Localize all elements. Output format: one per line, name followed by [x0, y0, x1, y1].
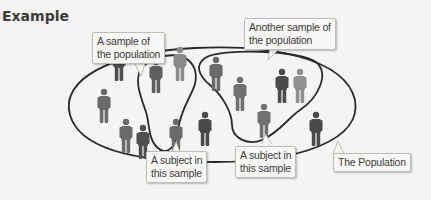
callout-line: The Population: [338, 156, 406, 169]
callout-line: this sample: [240, 162, 291, 175]
callout-line: A subject in: [151, 154, 202, 167]
callout-sample-of-population: A sample of the population: [92, 32, 165, 64]
callout-subject-in-sample-1: A subject in this sample: [146, 151, 207, 183]
callout-the-population: The Population: [333, 153, 411, 172]
callout-line: the population: [249, 34, 331, 47]
person-icon: [174, 47, 187, 81]
person-icon: [258, 104, 271, 138]
callout-line: the population: [97, 48, 160, 61]
person-icon: [294, 69, 307, 103]
callout-line: A sample of: [97, 35, 160, 48]
callout-line: A subject in: [240, 149, 291, 162]
callout-subject-in-sample-2: A subject in this sample: [235, 146, 296, 178]
callout-line: this sample: [151, 167, 202, 180]
person-icon: [276, 69, 289, 103]
callout-line: Another sample of: [249, 21, 331, 34]
person-icon: [310, 112, 323, 146]
person-icon: [120, 119, 133, 153]
callout-pointer: [135, 64, 145, 76]
person-icon: [98, 89, 111, 123]
callout-another-sample: Another sample of the population: [244, 18, 336, 50]
person-icon: [234, 77, 247, 111]
person-icon: [199, 112, 212, 146]
